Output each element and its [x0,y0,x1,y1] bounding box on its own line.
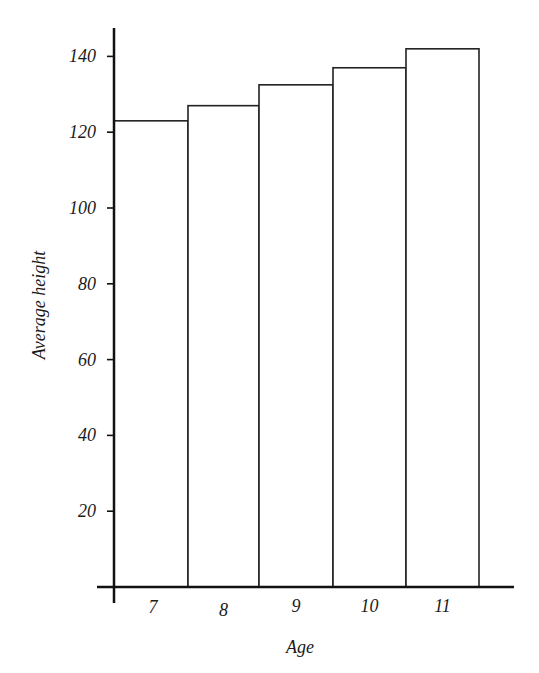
y-tick-label: 60 [78,350,96,370]
y-tick-label: 40 [78,425,96,445]
y-tick-label: 100 [69,198,96,218]
x-tick-label: 8 [219,600,228,620]
bar-age-10 [333,68,406,587]
x-tick-label: 9 [292,596,301,616]
x-ticks-group: 7891011 [149,596,451,620]
histogram-chart: 20406080100120140 7891011 Age Average he… [0,0,539,673]
x-axis-label: Age [285,637,314,657]
chart-canvas: 20406080100120140 7891011 Age Average he… [0,0,539,673]
bar-age-8 [188,106,259,587]
bar-age-9 [259,85,333,587]
y-axis-label: Average height [29,250,49,360]
bar-age-11 [406,49,479,587]
x-tick-label: 10 [361,596,379,616]
y-tick-label: 20 [78,501,96,521]
bar-age-7 [114,121,188,587]
x-tick-label: 11 [434,596,451,616]
y-tick-label: 140 [69,46,96,66]
bars-group [114,49,479,587]
y-tick-label: 120 [69,122,96,142]
x-tick-label: 7 [149,597,159,617]
y-ticks-group: 20406080100120140 [69,46,114,521]
y-tick-label: 80 [78,274,96,294]
